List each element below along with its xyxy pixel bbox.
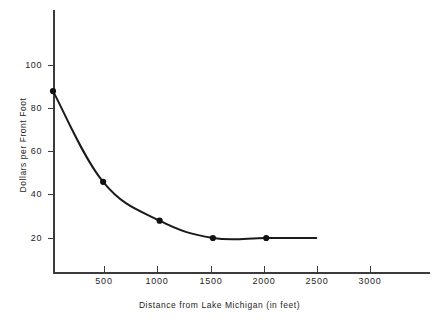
data-point — [210, 235, 216, 241]
data-point-markers — [50, 88, 269, 241]
data-point — [100, 179, 106, 185]
data-point — [50, 88, 56, 94]
chart-figure: 100 80 60 40 20 500 1000 1500 2000 2500 … — [0, 0, 439, 325]
data-point — [157, 218, 163, 224]
data-point — [263, 235, 269, 241]
data-curve — [53, 91, 316, 239]
plot-area — [0, 0, 439, 325]
